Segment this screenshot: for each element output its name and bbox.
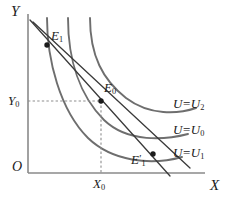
point-marker-e1	[44, 42, 49, 47]
budget-line-original	[30, 20, 170, 176]
indifference-curve-figure: Y X O Y0 X0 E1 E0 E′1 U=U2 U=U0 U=U1	[0, 0, 228, 200]
point-label-e1: E1	[51, 29, 63, 42]
y-axis-label: Y	[11, 4, 19, 19]
x-axis-label: X	[210, 178, 219, 193]
origin-label: O	[12, 160, 22, 174]
y0-tick-label: Y0	[8, 94, 19, 107]
curve-label-u1: U=U1	[173, 146, 204, 159]
point-label-e1-prime: E′1	[131, 153, 146, 166]
x0-tick-label: X0	[93, 177, 105, 190]
curve-label-u0: U=U0	[173, 123, 204, 136]
point-label-e0: E0	[104, 81, 116, 94]
curve-label-u2: U=U2	[173, 97, 204, 110]
indifference-curve-u0	[68, 18, 188, 138]
point-marker-e0	[98, 98, 103, 103]
point-marker-e1-prime	[150, 151, 155, 156]
